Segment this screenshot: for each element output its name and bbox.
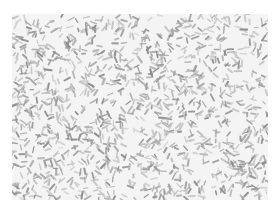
micrograph-image — [12, 14, 268, 200]
image-canvas — [0, 0, 279, 214]
rod-particle-field — [12, 14, 268, 200]
